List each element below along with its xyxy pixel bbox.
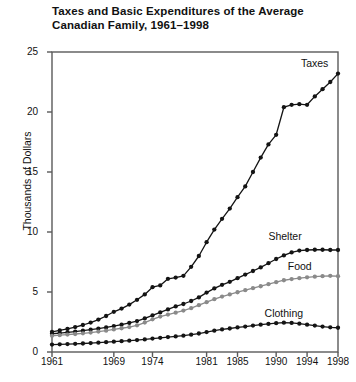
x-tick-label: 1981	[195, 356, 217, 367]
data-point-clothing	[282, 321, 286, 325]
data-point-clothing	[297, 322, 301, 326]
data-point-clothing	[89, 341, 93, 345]
data-point-shelter	[220, 283, 224, 287]
data-point-shelter	[266, 261, 270, 265]
data-point-shelter	[212, 286, 216, 290]
data-point-food	[58, 333, 62, 337]
data-point-clothing	[235, 325, 239, 329]
data-point-taxes	[204, 240, 208, 244]
data-point-taxes	[174, 275, 178, 279]
data-point-taxes	[328, 80, 332, 84]
data-point-taxes	[135, 298, 139, 302]
y-tick-label: 10	[14, 226, 38, 237]
data-point-taxes	[320, 87, 324, 91]
data-point-clothing	[96, 340, 100, 344]
data-point-taxes	[197, 254, 201, 258]
data-point-taxes	[336, 71, 340, 75]
data-point-food	[158, 314, 162, 318]
data-point-food	[65, 332, 69, 336]
data-point-clothing	[65, 342, 69, 346]
data-point-clothing	[243, 324, 247, 328]
data-point-taxes	[243, 184, 247, 188]
data-point-food	[135, 323, 139, 327]
data-point-clothing	[143, 337, 147, 341]
data-point-clothing	[119, 339, 123, 343]
data-point-taxes	[127, 302, 131, 306]
data-point-shelter	[243, 272, 247, 276]
data-point-clothing	[204, 330, 208, 334]
data-point-shelter	[197, 295, 201, 299]
data-point-taxes	[220, 217, 224, 221]
data-point-shelter	[135, 319, 139, 323]
data-point-clothing	[50, 342, 54, 346]
data-point-taxes	[297, 102, 301, 106]
y-tick-label: 20	[14, 106, 38, 117]
x-tick-label: 1961	[41, 356, 63, 367]
data-point-clothing	[212, 328, 216, 332]
y-tick-label: 25	[14, 46, 38, 57]
data-point-taxes	[104, 314, 108, 318]
data-point-clothing	[220, 327, 224, 331]
data-point-taxes	[282, 105, 286, 109]
data-point-food	[259, 284, 263, 288]
data-point-clothing	[58, 342, 62, 346]
data-point-taxes	[150, 285, 154, 289]
data-point-shelter	[328, 248, 332, 252]
data-point-shelter	[181, 302, 185, 306]
x-tick-label: 1990	[265, 356, 287, 367]
series-label-shelter: Shelter	[268, 230, 301, 242]
data-point-shelter	[289, 250, 293, 254]
data-point-taxes	[212, 227, 216, 231]
x-tick-label: 1969	[103, 356, 125, 367]
data-point-clothing	[81, 341, 85, 345]
data-point-food	[166, 312, 170, 316]
data-point-food	[282, 278, 286, 282]
data-point-shelter	[166, 307, 170, 311]
data-point-taxes	[73, 325, 77, 329]
data-point-food	[174, 310, 178, 314]
data-point-clothing	[251, 323, 255, 327]
data-point-clothing	[135, 338, 139, 342]
data-point-taxes	[274, 133, 278, 137]
data-point-food	[328, 274, 332, 278]
data-point-food	[320, 274, 324, 278]
data-point-food	[150, 317, 154, 321]
data-point-taxes	[251, 170, 255, 174]
data-point-clothing	[150, 336, 154, 340]
series-label-taxes: Taxes	[301, 57, 328, 69]
data-point-clothing	[112, 340, 116, 344]
data-point-taxes	[235, 195, 239, 199]
data-point-shelter	[320, 248, 324, 252]
data-point-clothing	[158, 336, 162, 340]
data-point-taxes	[305, 103, 309, 107]
data-point-food	[228, 292, 232, 296]
data-point-shelter	[158, 310, 162, 314]
data-point-taxes	[289, 103, 293, 107]
data-point-clothing	[174, 334, 178, 338]
data-point-food	[197, 303, 201, 307]
data-point-shelter	[282, 253, 286, 257]
data-point-food	[127, 325, 131, 329]
y-tick-label: 0	[14, 346, 38, 357]
data-point-taxes	[143, 292, 147, 296]
series-line-taxes	[52, 74, 338, 332]
data-point-food	[266, 282, 270, 286]
series-label-clothing: Clothing	[265, 307, 304, 319]
series-line-clothing	[52, 323, 338, 345]
data-point-clothing	[228, 326, 232, 330]
data-point-food	[235, 290, 239, 294]
data-point-clothing	[197, 331, 201, 335]
data-point-shelter	[297, 248, 301, 252]
data-point-food	[181, 308, 185, 312]
data-point-taxes	[158, 283, 162, 287]
data-point-food	[274, 280, 278, 284]
data-point-clothing	[259, 322, 263, 326]
data-point-food	[204, 300, 208, 304]
data-point-shelter	[313, 248, 317, 252]
data-point-food	[251, 286, 255, 290]
x-tick-label: 1998	[327, 356, 349, 367]
data-point-shelter	[274, 257, 278, 261]
data-point-shelter	[251, 269, 255, 273]
data-point-taxes	[266, 142, 270, 146]
data-point-shelter	[228, 280, 232, 284]
